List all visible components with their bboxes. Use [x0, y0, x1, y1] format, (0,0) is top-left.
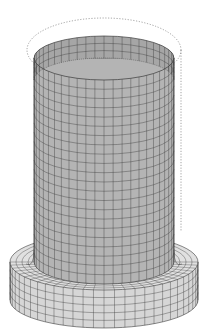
mesh-render — [0, 0, 208, 334]
fea-mesh-figure — [0, 0, 208, 334]
cylinder-body — [26, 36, 182, 284]
